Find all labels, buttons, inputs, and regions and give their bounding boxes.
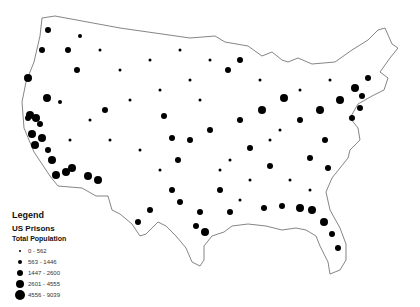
- dot-size-4-icon: [16, 280, 24, 288]
- legend: Legend US Prisons Total Population 0 - 5…: [12, 210, 122, 300]
- dot-size-3-icon: [17, 270, 23, 276]
- dot-size-5-icon: [15, 290, 25, 300]
- legend-class-3: 1447 - 2600: [12, 267, 122, 278]
- dot-size-2-icon: [18, 260, 22, 264]
- legend-class-2: 563 - 1446: [12, 256, 122, 267]
- legend-layer-title: US Prisons: [12, 224, 122, 233]
- legend-class-5: 4556 - 9039: [12, 289, 122, 300]
- legend-field-title: Total Population: [12, 235, 122, 242]
- dot-size-1-icon: [19, 250, 21, 252]
- legend-heading: Legend: [12, 210, 122, 220]
- legend-class-1: 0 - 562: [12, 245, 122, 256]
- legend-class-4: 2601 - 4555: [12, 278, 122, 289]
